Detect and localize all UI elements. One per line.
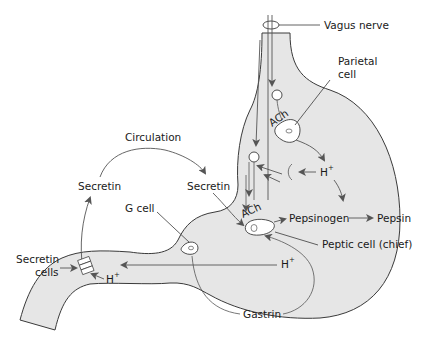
label-h-plus-duodenum: H	[106, 273, 114, 285]
svg-text:+: +	[289, 256, 295, 264]
gastric-secretion-diagram: Vagus nerve Parietal cell ACh H + ACh Pe…	[0, 0, 433, 343]
label-secretin-right: Secretin	[187, 180, 230, 192]
label-h-plus-bottom: H	[281, 258, 289, 270]
label-circulation: Circulation	[125, 131, 181, 143]
diagram-canvas: Vagus nerve Parietal cell ACh H + ACh Pe…	[0, 0, 433, 343]
label-secretin-left: Secretin	[78, 180, 121, 192]
label-pepsin: Pepsin	[377, 212, 411, 224]
svg-text:+: +	[328, 164, 334, 172]
vagus-nerve-bundle	[263, 21, 279, 29]
label-g-cell: G cell	[125, 202, 155, 214]
label-secretin-cells-2: cells	[35, 266, 59, 278]
label-cell: cell	[338, 68, 356, 80]
svg-text:+: +	[114, 271, 120, 279]
label-parietal: Parietal	[338, 55, 377, 67]
label-h-plus-mid: H	[320, 166, 328, 178]
neuron-icon	[272, 90, 282, 100]
label-secretin-cells-1: Secretin	[16, 253, 59, 265]
label-pepsinogen: Pepsinogen	[289, 212, 349, 224]
label-gastrin: Gastrin	[243, 308, 281, 320]
neuron-icon	[249, 152, 259, 162]
label-vagus-nerve: Vagus nerve	[324, 19, 389, 31]
label-peptic-cell: Peptic cell (chief)	[322, 238, 412, 250]
